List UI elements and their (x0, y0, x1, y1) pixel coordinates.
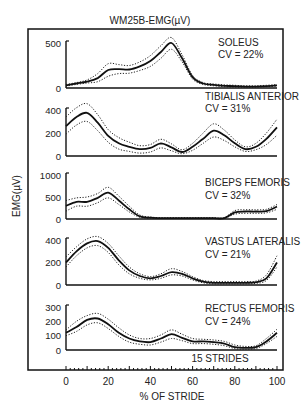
muscle-name: BICEPS FEMORIS (205, 177, 290, 188)
panel-vastus-lateralis: 0200400VASTUS LATERALISCV = 21% (45, 235, 300, 291)
cv-label: CV = 24% (205, 316, 250, 327)
y-tick-label: 0 (56, 83, 61, 94)
y-tick-label: 0 (56, 280, 61, 291)
y-tick-label: 100 (45, 330, 61, 341)
y-tick-label: 1000 (40, 170, 61, 181)
x-tick-label: 0 (63, 376, 69, 387)
y-tick-label: 300 (45, 302, 61, 313)
strides-note: 15 STRIDES (191, 353, 249, 364)
x-tick-label: 80 (229, 376, 241, 387)
panel-soleus: 0500SOLEUSCV = 22% (45, 37, 277, 94)
panel-biceps-femoris: 05001000BICEPS FEMORISCV = 32% (40, 170, 290, 225)
x-tick-label: 40 (145, 376, 157, 387)
panels: 0500SOLEUSCV = 22%0200400TIBIALIS ANTERI… (40, 37, 301, 356)
muscle-name: TIBIALIS ANTERIOR (205, 91, 299, 102)
figure-title: WM25B-EMG(µV) (110, 15, 191, 26)
muscle-name: RECTUS FEMORIS (205, 303, 295, 314)
panel-tibialis-anterior: 0200400TIBIALIS ANTERIORCV = 31% (45, 91, 299, 162)
muscle-name: SOLEUS (218, 37, 259, 48)
cv-label: CV = 32% (205, 190, 250, 201)
x-tick-label: 60 (187, 376, 199, 387)
y-tick-label: 200 (45, 316, 61, 327)
x-axis-ticks: 020406080100 (63, 366, 286, 387)
y-tick-label: 0 (56, 345, 61, 356)
y-tick-label: 400 (45, 235, 61, 246)
emg-figure: WM25B-EMG(µV) EMG(µV) 0500SOLEUSCV = 22%… (0, 0, 301, 414)
y-tick-label: 500 (45, 38, 61, 49)
y-tick-label: 400 (45, 105, 61, 116)
mean-curve (66, 241, 277, 283)
y-tick-label: 0 (56, 151, 61, 162)
x-axis-label: % OF STRIDE (139, 391, 204, 402)
cv-label: CV = 21% (205, 249, 250, 260)
y-tick-label: 0 (56, 214, 61, 225)
cv-label: CV = 22% (218, 49, 263, 60)
mean-curve (66, 113, 277, 152)
x-tick-label: 20 (103, 376, 115, 387)
cv-label: CV = 31% (205, 103, 250, 114)
x-tick-label: 100 (269, 376, 286, 387)
y-tick-label: 200 (45, 128, 61, 139)
y-tick-label: 500 (45, 192, 61, 203)
muscle-name: VASTUS LATERALIS (205, 236, 301, 247)
panel-rectus-femoris: 0100200300RECTUS FEMORISCV = 24% (45, 302, 295, 356)
y-axis-label: EMG(µV) (11, 175, 22, 217)
y-tick-label: 200 (45, 257, 61, 268)
